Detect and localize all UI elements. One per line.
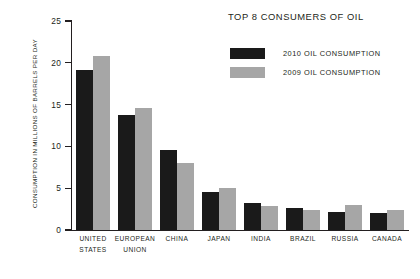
x-axis-category-label: INDIA <box>240 234 282 245</box>
bar-2010 <box>160 150 177 230</box>
bar-2009 <box>345 205 362 230</box>
bar-2009 <box>387 210 404 230</box>
bar-group <box>76 21 110 230</box>
x-axis-category-label: BRAZIL <box>282 234 324 245</box>
bar-2010 <box>286 208 303 230</box>
bar-2009 <box>177 163 194 230</box>
y-axis-tick-label: 10 <box>21 141 61 151</box>
y-axis-tick-label: 20 <box>21 58 61 68</box>
legend-swatch <box>230 67 265 79</box>
x-axis-category-label: UNITED STATES <box>72 234 114 255</box>
y-axis-tick-label: 15 <box>21 100 61 110</box>
y-axis-tick-label: 25 <box>21 16 61 26</box>
chart-legend: 2010 OIL CONSUMPTION2009 OIL CONSUMPTION <box>230 44 381 82</box>
bar-2010 <box>202 192 219 230</box>
legend-swatch <box>230 48 265 60</box>
x-axis-category-label: EUROPEAN UNION <box>114 234 156 255</box>
y-axis-tick-label: 0 <box>21 225 61 235</box>
y-axis-tick-label: 5 <box>21 183 61 193</box>
bar-group <box>160 21 194 230</box>
bar-2010 <box>370 213 387 230</box>
bar-2009 <box>93 56 110 230</box>
chart-title: TOP 8 CONSUMERS OF OIL <box>228 11 364 22</box>
legend-label: 2010 OIL CONSUMPTION <box>283 49 381 58</box>
bar-group <box>118 21 152 230</box>
legend-item: 2010 OIL CONSUMPTION <box>230 44 381 63</box>
bar-2009 <box>219 188 236 230</box>
x-axis-category-label: JAPAN <box>198 234 240 245</box>
oil-consumption-bar-chart: CONSUMPTION IN MILLIONS OF BARRELS PER D… <box>0 0 420 279</box>
y-axis-title: CONSUMPTION IN MILLIONS OF BARRELS PER D… <box>31 24 38 224</box>
bar-2010 <box>244 203 261 230</box>
bar-2009 <box>261 206 278 230</box>
bar-2009 <box>135 108 152 230</box>
bar-2010 <box>76 70 93 230</box>
legend-item: 2009 OIL CONSUMPTION <box>230 63 381 82</box>
bar-2010 <box>118 115 135 230</box>
x-axis-category-label: CHINA <box>156 234 198 245</box>
x-axis-category-label: RUSSIA <box>324 234 366 245</box>
x-axis-category-label: CANADA <box>366 234 408 245</box>
bar-2009 <box>303 210 320 230</box>
legend-label: 2009 OIL CONSUMPTION <box>283 68 381 77</box>
bar-2010 <box>328 212 345 230</box>
x-axis-category-labels: UNITED STATESEUROPEAN UNIONCHINAJAPANIND… <box>72 234 408 274</box>
